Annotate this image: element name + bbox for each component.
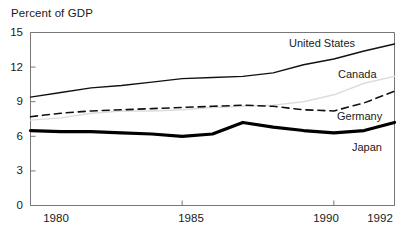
y-tick-label-3: 3	[1, 164, 23, 176]
series-line-japan	[31, 122, 395, 136]
x-tick-label-1985: 1985	[171, 212, 211, 224]
x-tick-label-1992: 1992	[360, 212, 400, 224]
series-label-germany: Germany	[337, 110, 382, 122]
y-tick-label-15: 15	[1, 26, 23, 38]
y-tick-label-12: 12	[1, 61, 23, 73]
y-tick-label-0: 0	[1, 199, 23, 211]
chart-container: Percent of GDP 15 12 9 6 3 0 1980 1985 1…	[0, 0, 411, 245]
series-label-united-states: United States	[289, 37, 355, 49]
series-label-japan: Japan	[352, 141, 382, 153]
x-tick-label-1980: 1980	[36, 212, 76, 224]
y-tick-label-6: 6	[1, 130, 23, 142]
x-tick-label-1990: 1990	[306, 212, 346, 224]
series-lines	[31, 44, 395, 136]
x-axis-ticks	[31, 201, 395, 206]
y-axis-ticks	[31, 33, 36, 206]
series-label-canada: Canada	[338, 68, 377, 80]
y-tick-label-9: 9	[1, 95, 23, 107]
